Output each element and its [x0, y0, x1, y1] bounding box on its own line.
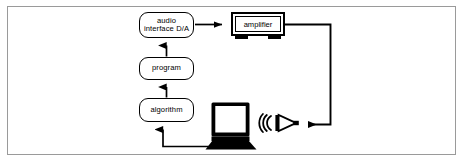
amplifier-foot-left	[235, 36, 248, 39]
node-algorithm-label: algorithm	[150, 106, 182, 114]
sound-wave-arcs	[259, 114, 271, 132]
laptop-base	[206, 141, 257, 150]
laptop-display	[215, 106, 245, 133]
speaker-terminal	[293, 121, 298, 125]
laptop-hinge	[212, 137, 250, 142]
speaker-diaphragm	[275, 115, 278, 131]
node-audio-interface-label-line2: interface D/A	[144, 25, 189, 33]
speaker-cone	[279, 115, 295, 131]
amplifier-front-panel: amplifier	[235, 16, 280, 31]
loudspeaker-icon	[262, 101, 308, 141]
node-amplifier[interactable]: amplifier	[231, 12, 285, 41]
node-program-label: program	[152, 64, 181, 72]
diagram-canvas: audio interface D/A program algorithm am…	[0, 0, 467, 164]
node-program[interactable]: program	[139, 57, 194, 80]
amplifier-chassis: amplifier	[231, 12, 285, 36]
node-amplifier-label: amplifier	[244, 20, 273, 29]
node-algorithm[interactable]: algorithm	[139, 98, 194, 122]
node-audio-interface[interactable]: audio interface D/A	[139, 12, 194, 38]
amplifier-foot-right	[268, 36, 281, 39]
laptop-icon	[203, 101, 263, 151]
